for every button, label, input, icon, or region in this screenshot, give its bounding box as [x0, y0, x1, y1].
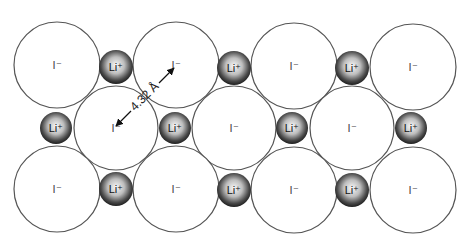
iodide-label: I⁻ [347, 122, 356, 134]
lithium-ion: Li⁺ [99, 172, 133, 206]
iodide-ion: I⁻ [133, 146, 219, 232]
lithium-ion: Li⁺ [335, 51, 369, 85]
iodide-label: I⁻ [52, 183, 61, 195]
lithium-label: Li⁺ [109, 61, 124, 73]
iodide-label: I⁻ [229, 122, 238, 134]
iodide-ion: I⁻ [14, 22, 100, 108]
lithium-label: Li⁺ [345, 184, 360, 196]
iodide-ion: I⁻ [14, 146, 100, 232]
lattice-diagram: I⁻I⁻I⁻I⁻I⁻I⁻I⁻I⁻I⁻I⁻I⁻ Li⁺Li⁺Li⁺Li⁺Li⁺Li… [0, 0, 467, 248]
lithium-label: Li⁺ [404, 122, 419, 134]
lithium-label: Li⁺ [227, 184, 242, 196]
lithium-label: Li⁺ [285, 122, 300, 134]
lithium-ion: Li⁺ [276, 112, 308, 144]
iodide-ion: I⁻ [251, 147, 337, 233]
iodide-ion: I⁻ [370, 147, 456, 233]
lithium-ion: Li⁺ [217, 173, 251, 207]
lithium-label: Li⁺ [345, 62, 360, 74]
lithium-ion: Li⁺ [395, 112, 427, 144]
lithium-ion: Li⁺ [335, 173, 369, 207]
iodide-label: I⁻ [408, 184, 417, 196]
iodide-label: I⁻ [52, 59, 61, 71]
lithium-ion: Li⁺ [217, 51, 251, 85]
lithium-label: Li⁺ [227, 62, 242, 74]
iodide-ion: I⁻ [370, 24, 456, 110]
iodide-label: I⁻ [171, 183, 180, 195]
lithium-label: Li⁺ [168, 122, 183, 134]
iodide-label: I⁻ [408, 61, 417, 73]
lithium-label: Li⁺ [49, 122, 64, 134]
iodide-label: I⁻ [289, 60, 298, 72]
iodide-label: I⁻ [111, 122, 120, 134]
iodide-label: I⁻ [289, 184, 298, 196]
lithium-ion: Li⁺ [40, 112, 72, 144]
lithium-ion: Li⁺ [159, 112, 191, 144]
lithium-label: Li⁺ [109, 183, 124, 195]
lattice-svg: I⁻I⁻I⁻I⁻I⁻I⁻I⁻I⁻I⁻I⁻I⁻ Li⁺Li⁺Li⁺Li⁺Li⁺Li… [0, 0, 467, 248]
lithium-ion: Li⁺ [99, 50, 133, 84]
